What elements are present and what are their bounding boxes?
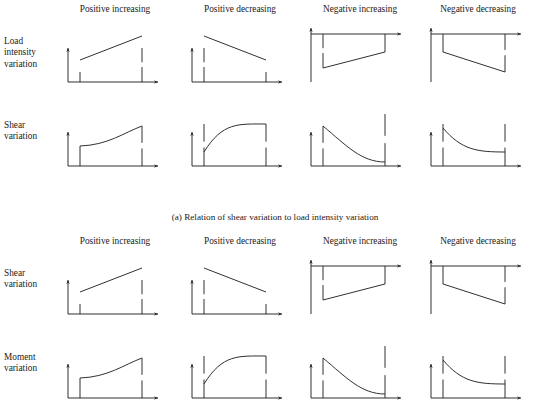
variation-curve [204, 36, 266, 60]
chart-panel-positive-decreasing [186, 342, 286, 404]
chart-panel-positive-decreasing [186, 258, 286, 320]
variation-curve [323, 284, 385, 300]
row-label-line: Moment [4, 352, 37, 363]
variation-curve [443, 128, 505, 152]
row-label-line: variation [4, 131, 37, 142]
column-header-negative-increasing: Negative increasing [300, 236, 420, 246]
row-label-line: variation [4, 279, 37, 290]
column-header-positive-increasing: Positive increasing [55, 4, 175, 14]
row-label-line: intensity [4, 47, 37, 58]
figure-block-a: Positive increasingPositive decreasingNe… [0, 0, 550, 205]
chart-panel-positive-decreasing [186, 26, 286, 88]
chart-panel-negative-increasing [305, 342, 405, 404]
variation-curve [80, 268, 142, 292]
figure-root: Positive increasingPositive decreasingNe… [0, 0, 550, 412]
chart-panel-negative-increasing [305, 26, 405, 88]
variation-curve [204, 356, 266, 384]
variation-curve [323, 52, 385, 68]
row-label-line: Shear [4, 120, 37, 131]
chart-panel-negative-decreasing [425, 342, 525, 404]
variation-curve [80, 126, 142, 146]
chart-panel-negative-decreasing [425, 110, 525, 172]
chart-panel-negative-increasing [305, 110, 405, 172]
variation-curve [80, 358, 142, 378]
column-header-negative-increasing: Negative increasing [300, 4, 420, 14]
chart-panel-positive-increasing [62, 26, 162, 88]
row-label-line: variation [4, 363, 37, 374]
figure-block-b: Positive increasingPositive decreasingNe… [0, 232, 550, 412]
chart-panel-positive-increasing [62, 258, 162, 320]
row-label-line: Load [4, 36, 37, 47]
column-header-negative-decreasing: Negative decreasing [418, 4, 538, 14]
chart-panel-negative-decreasing [425, 258, 525, 320]
variation-curve [204, 124, 266, 152]
figure-caption-a: (a) Relation of shear variation to load … [0, 212, 550, 222]
chart-panel-negative-decreasing [425, 26, 525, 88]
row-label-line: variation [4, 59, 37, 70]
column-headers-a: Positive increasingPositive decreasingNe… [0, 0, 550, 20]
variation-curve [323, 126, 385, 162]
column-headers-b: Positive increasingPositive decreasingNe… [0, 232, 550, 252]
column-header-positive-decreasing: Positive decreasing [180, 4, 300, 14]
variation-curve [443, 360, 505, 384]
row-label-shear-variation: Shearvariation [4, 268, 37, 291]
column-header-positive-increasing: Positive increasing [55, 236, 175, 246]
row-label-load-intensity-variation: Loadintensityvariation [4, 36, 37, 70]
variation-curve [80, 36, 142, 60]
chart-panel-positive-increasing [62, 342, 162, 404]
row-label-shear-variation: Shearvariation [4, 120, 37, 143]
variation-curve [323, 358, 385, 394]
column-header-positive-decreasing: Positive decreasing [180, 236, 300, 246]
row-label-moment-variation: Momentvariation [4, 352, 37, 375]
chart-panel-positive-increasing [62, 110, 162, 172]
column-header-negative-decreasing: Negative decreasing [418, 236, 538, 246]
chart-panel-negative-increasing [305, 258, 405, 320]
variation-curve [204, 268, 266, 292]
variation-curve [443, 52, 505, 72]
variation-curve [443, 284, 505, 304]
chart-panel-positive-decreasing [186, 110, 286, 172]
row-label-line: Shear [4, 268, 37, 279]
